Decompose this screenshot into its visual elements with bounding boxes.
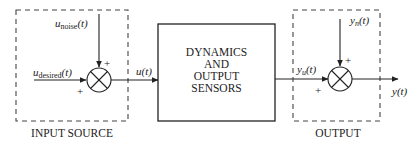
input-source-group: INPUT SOURCE unoise(t) + udesired(t) + <box>16 10 128 139</box>
block-line-1: DYNAMICS <box>186 46 247 58</box>
output-junction-left-plus-sign: + <box>315 84 321 96</box>
output-label: OUTPUT <box>315 127 360 139</box>
u-t-label: u(t) <box>136 65 152 78</box>
y-t-label: y(t) <box>391 85 408 98</box>
block-line-2: AND <box>204 58 229 70</box>
control-system-block-diagram: INPUT SOURCE unoise(t) + udesired(t) + u… <box>0 0 420 145</box>
input-source-label: INPUT SOURCE <box>31 127 113 139</box>
output-junction-top-plus-sign: + <box>345 54 351 66</box>
dynamics-block: DYNAMICS AND OUTPUT SENSORS <box>158 24 275 121</box>
y-n-label: yn(t) <box>349 14 370 28</box>
block-line-3: OUTPUT <box>194 70 239 82</box>
u-noise-label: unoise(t) <box>55 17 88 31</box>
input-summing-junction-icon <box>87 68 111 92</box>
output-summing-junction-icon <box>328 67 352 91</box>
junction-left-plus-sign: + <box>77 85 83 97</box>
u-desired-label: udesired(t) <box>33 66 72 80</box>
block-line-4: SENSORS <box>191 82 242 94</box>
y-u-label: yu(t) <box>296 63 317 77</box>
junction-top-plus-sign: + <box>104 57 110 69</box>
